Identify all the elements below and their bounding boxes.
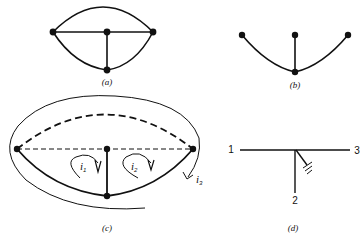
terminal-1-label: 1 [228, 144, 234, 155]
caption-c: (c) [102, 223, 112, 233]
panel-c [10, 96, 200, 209]
current-i1-label: i1 [80, 160, 86, 173]
i3-arrowhead-icon [183, 172, 193, 179]
caption-a: (a) [102, 77, 113, 87]
node-bottom [292, 69, 298, 75]
i1-arrowhead-icon [95, 160, 101, 172]
caption-b: (b) [290, 80, 301, 90]
node-center [292, 32, 298, 38]
panel-a [50, 7, 157, 73]
node-right [345, 32, 351, 38]
node-right [190, 146, 196, 152]
lower-right-edge [107, 32, 153, 70]
ground-icon [303, 162, 312, 174]
node-center [104, 146, 110, 152]
caption-d: (d) [288, 223, 299, 233]
node-left [50, 29, 57, 36]
panel-d [240, 150, 350, 193]
i2-arrowhead-icon [148, 160, 154, 170]
current-i3-label: i3 [196, 173, 203, 186]
node-left [14, 146, 20, 152]
node-center [104, 29, 111, 36]
terminal-3-label: 3 [354, 145, 360, 156]
ground-lead [296, 150, 307, 165]
figure-canvas: (a) (b) [0, 0, 364, 241]
panel-b [239, 32, 351, 75]
node-bottom [104, 193, 110, 199]
tree-branch-right [107, 149, 193, 196]
tree-branch-left [17, 149, 107, 196]
outer-loop-current-path [10, 96, 200, 209]
left-branch [242, 35, 295, 72]
lower-left-edge [53, 32, 107, 70]
right-branch [295, 35, 348, 72]
node-left [239, 32, 245, 38]
node-right [150, 29, 157, 36]
top-arc-edge [53, 7, 153, 32]
node-bottom [104, 67, 111, 74]
terminal-2-label: 2 [292, 195, 298, 206]
dashed-top-link [17, 115, 193, 150]
loop-current-i2-arc [123, 154, 151, 178]
current-i2-label: i2 [131, 160, 138, 173]
